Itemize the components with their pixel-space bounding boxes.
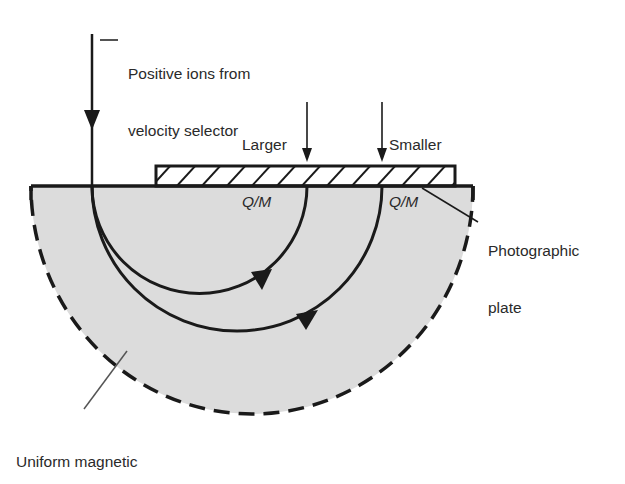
magnetic-field-label: Uniform magnetic field directed into pap… — [16, 414, 137, 484]
ion-source-label: Positive ions from velocity selector — [128, 26, 250, 178]
field-label-line1: Uniform magnetic — [16, 452, 137, 471]
photographic-plate-label: Photographic plate — [488, 203, 579, 355]
smaller-qm-pointer-icon — [377, 148, 387, 162]
plate-label-line1: Photographic — [488, 241, 579, 260]
plate-label-line2: plate — [488, 298, 579, 317]
smaller-qm-label-line1: Smaller — [389, 135, 442, 154]
larger-qm-pointer-icon — [302, 148, 312, 162]
mass-spectrometer-diagram: Positive ions from velocity selector Lar… — [0, 0, 625, 484]
larger-qm-label-line2: Q/M — [242, 192, 287, 211]
larger-qm-label: Larger Q/M — [242, 97, 287, 249]
smaller-qm-label-line2: Q/M — [389, 192, 442, 211]
ion-source-label-line1: Positive ions from — [128, 64, 250, 83]
larger-qm-label-line1: Larger — [242, 135, 287, 154]
ion-source-label-line2: velocity selector — [128, 121, 250, 140]
incoming-arrow-icon — [84, 110, 100, 130]
smaller-qm-label: Smaller Q/M — [389, 97, 442, 249]
